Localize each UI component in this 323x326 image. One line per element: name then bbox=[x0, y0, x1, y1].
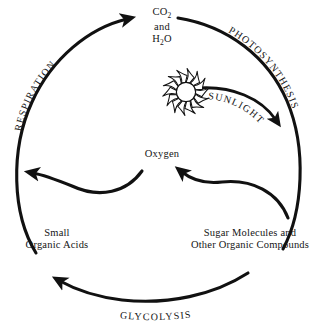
respiration-arc bbox=[17, 19, 127, 253]
small-organic-acids-line1: Small bbox=[2, 227, 112, 239]
node-label-co2-water: CO2 and H2O bbox=[132, 6, 192, 48]
co2-line: CO2 bbox=[132, 6, 192, 21]
co2-subscript: 2 bbox=[168, 11, 172, 20]
node-label-oxygen: Oxygen bbox=[122, 148, 202, 160]
cycle-arcs-and-arrows bbox=[0, 0, 323, 326]
sugar-to-oxygen-arc bbox=[182, 172, 288, 218]
glycolysis-arc bbox=[60, 273, 248, 301]
h2o-tail: O bbox=[164, 33, 172, 44]
oxygen-to-respiration-arc bbox=[33, 171, 142, 193]
h2o-main: H bbox=[152, 33, 160, 44]
sugar-molecules-line1: Sugar Molecules and bbox=[180, 227, 320, 239]
sun-icon bbox=[161, 67, 210, 116]
node-label-small-organic-acids: Small Organic Acids bbox=[2, 227, 112, 252]
sugar-molecules-line2: Other Organic Compounds bbox=[180, 239, 320, 251]
cycle-diagram: RESPIRATION PHOTOSYNTHESIS SUNLIGHT GLYC… bbox=[0, 0, 323, 326]
photosynthesis-arc bbox=[178, 18, 300, 249]
and-line: and bbox=[132, 21, 192, 33]
co2-main: CO bbox=[153, 6, 168, 17]
sunlight-arrow bbox=[199, 88, 276, 120]
small-organic-acids-line2: Organic Acids bbox=[2, 239, 112, 251]
h2o-line: H2O bbox=[132, 33, 192, 48]
node-label-sugar-molecules: Sugar Molecules and Other Organic Compou… bbox=[180, 227, 320, 252]
